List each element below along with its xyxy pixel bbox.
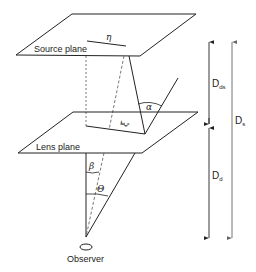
- xi-segment: [86, 126, 145, 134]
- source-plane: Source plane η: [16, 14, 196, 56]
- beta-symbol: β: [88, 161, 94, 171]
- dds-label: Dds: [212, 78, 226, 90]
- theta-symbol: Θ: [97, 184, 105, 194]
- lens-plane: Lens plane: [18, 112, 198, 153]
- source-direction-dashed-line: [109, 56, 124, 130]
- light-ray-source-lens: [129, 56, 145, 134]
- xi-symbol: ξ: [119, 120, 130, 128]
- theta-arc: [86, 194, 108, 196]
- observer-icon: [80, 244, 92, 250]
- dd-label: Dd: [212, 170, 223, 182]
- lensing-diagram: Source plane η Lens plane ξ α β Θ Observ…: [0, 0, 256, 272]
- lens-plane-label: Lens plane: [36, 142, 80, 152]
- alpha-symbol: α: [146, 102, 152, 112]
- ds-label: Ds: [235, 115, 245, 127]
- source-plane-label: Source plane: [34, 44, 87, 54]
- beta-arc: [86, 172, 99, 173]
- observer-label: Observer: [67, 254, 104, 264]
- eta-symbol: η: [106, 32, 112, 42]
